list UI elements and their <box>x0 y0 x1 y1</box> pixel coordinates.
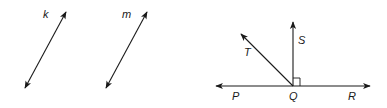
label-k: k <box>43 8 49 20</box>
label-Q: Q <box>289 90 298 102</box>
label-P: P <box>232 90 240 102</box>
line-k <box>25 12 66 88</box>
label-T: T <box>244 46 252 58</box>
angle-figure: S T P Q R <box>216 22 370 102</box>
ray-QT <box>241 34 293 86</box>
label-m: m <box>122 8 131 20</box>
line-m <box>106 12 147 88</box>
label-S: S <box>298 34 306 46</box>
label-R: R <box>348 90 356 102</box>
parallel-lines-figure: k m <box>25 8 147 88</box>
geometry-diagram: k m S T P Q R <box>0 0 387 108</box>
right-angle-marker <box>293 78 300 86</box>
